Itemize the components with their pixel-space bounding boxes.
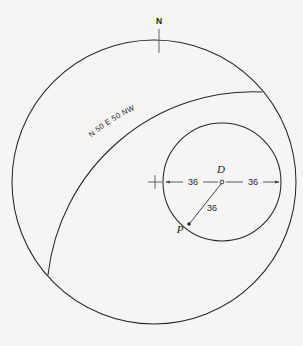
dimension-label-right: 36 [248, 177, 258, 187]
diagram-canvas: N N 50 E 50 NW 36 36 36 D P [0, 0, 303, 346]
point-p-label: P [176, 223, 184, 235]
center-cross-mark [148, 175, 162, 189]
north-label: N [156, 16, 162, 26]
point-p-marker [187, 222, 190, 225]
dimension-label-left: 36 [188, 177, 198, 187]
survey-circle-diagram: N N 50 E 50 NW 36 36 36 D P [0, 0, 303, 346]
dimension-label-radius: 36 [207, 203, 217, 213]
point-d-label: D [216, 163, 225, 175]
point-d-marker [220, 180, 224, 184]
